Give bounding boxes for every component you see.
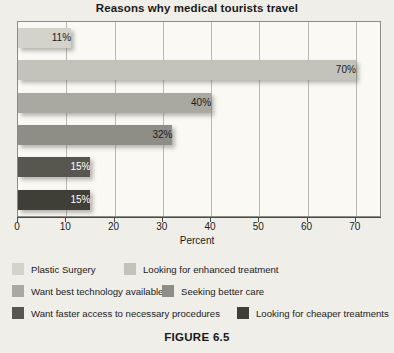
- legend-swatch-icon: [12, 263, 24, 275]
- legend-swatch-icon: [162, 285, 174, 297]
- legend-item: Want faster access to necessary procedur…: [12, 305, 220, 321]
- legend-label: Want best technology available: [31, 286, 163, 297]
- x-tick-label: 50: [253, 221, 264, 232]
- x-tick-label: 10: [60, 221, 71, 232]
- figure-container: Reasons why medical tourists travel 11%7…: [0, 0, 394, 353]
- bar-row: 32%: [18, 119, 380, 151]
- legend-item: Plastic Surgery: [12, 261, 96, 277]
- bar-row: 40%: [18, 87, 380, 119]
- legend-item: Looking for cheaper treatments: [237, 305, 389, 321]
- x-axis-title: Percent: [0, 235, 394, 246]
- legend-item: Want best technology available: [12, 283, 163, 299]
- bar-value-label: 15%: [18, 190, 94, 210]
- legend-label: Plastic Surgery: [31, 264, 96, 275]
- x-tick-label: 20: [108, 221, 119, 232]
- x-tick-label: 70: [349, 221, 360, 232]
- x-tick-label: 40: [205, 221, 216, 232]
- bars-group: 11%70%40%32%15%15%: [18, 22, 380, 216]
- legend-item: Seeking better care: [162, 283, 264, 299]
- x-tick-label: 60: [301, 221, 312, 232]
- bar-value-label: 15%: [18, 157, 94, 177]
- bar-value-label: 70%: [18, 60, 360, 80]
- legend-label: Looking for enhanced treatment: [143, 264, 278, 275]
- legend-label: Looking for cheaper treatments: [256, 308, 389, 319]
- legend-label: Want faster access to necessary procedur…: [31, 308, 220, 319]
- legend-swatch-icon: [124, 263, 136, 275]
- legend-label: Seeking better care: [181, 286, 264, 297]
- legend-row: Want best technology availableSeeking be…: [12, 283, 390, 305]
- chart-title: Reasons why medical tourists travel: [0, 2, 394, 14]
- x-tick-label: 0: [14, 221, 20, 232]
- legend-swatch-icon: [12, 285, 24, 297]
- chart-legend: Plastic SurgeryLooking for enhanced trea…: [12, 261, 390, 327]
- legend-swatch-icon: [12, 307, 24, 319]
- x-axis: [17, 217, 381, 223]
- bar-row: 15%: [18, 184, 380, 216]
- bar-value-label: 40%: [18, 93, 215, 113]
- figure-caption: FIGURE 6.5: [0, 331, 394, 343]
- bar-row: 11%: [18, 22, 380, 54]
- legend-row: Plastic SurgeryLooking for enhanced trea…: [12, 261, 390, 283]
- bar-row: 15%: [18, 151, 380, 183]
- legend-item: Looking for enhanced treatment: [124, 261, 278, 277]
- bar-value-label: 11%: [18, 28, 75, 48]
- x-tick-label: 30: [156, 221, 167, 232]
- plot-area: 11%70%40%32%15%15%: [17, 21, 381, 217]
- bar-row: 70%: [18, 54, 380, 86]
- bar-value-label: 32%: [18, 125, 176, 145]
- legend-row: Want faster access to necessary procedur…: [12, 305, 390, 327]
- legend-swatch-icon: [237, 307, 249, 319]
